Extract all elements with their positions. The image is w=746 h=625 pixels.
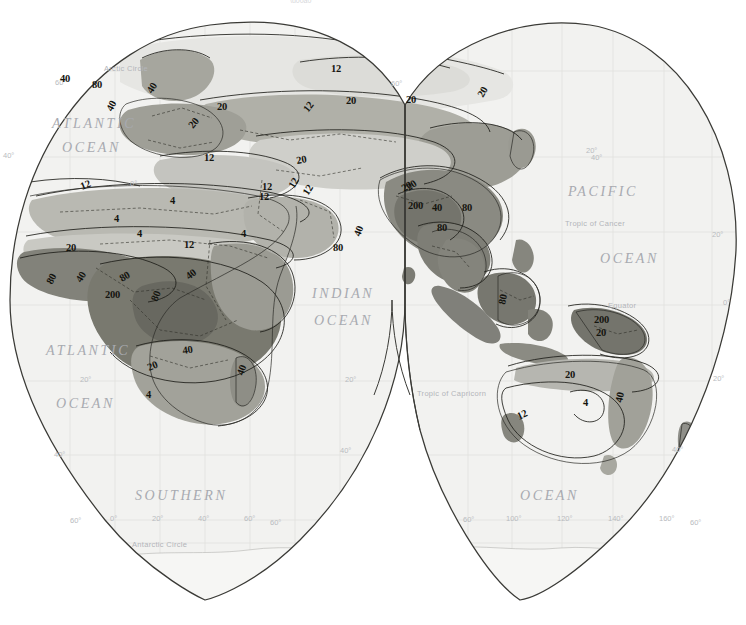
isohyet-label: 80 [333,242,343,253]
graticule-label: 20° [80,375,91,384]
graticule-label: 160° [659,514,675,523]
world-precipitation-map: ATLANTICOCEANATLANTICOCEANINDIANOCEANPAC… [0,0,746,625]
graticule-label: 0° [130,179,137,188]
graticule-label: 40° [672,445,683,454]
isohyet-label: 20 [596,327,606,338]
graticule-label: 60° [244,514,255,523]
graticule-label: 20° [345,375,356,384]
isohyet-label: 20 [217,101,227,112]
graticule-label: 20° [712,230,723,239]
isohyet-label: 20 [66,242,76,253]
graticule-label: 60° [391,79,402,88]
ocean-label: PACIFIC [567,184,638,199]
isohyet-label: 200 [594,314,609,325]
ocean-label: OCEAN [314,313,373,328]
graticule-label: 20° [152,514,163,523]
ocean-label: SOUTHERN [135,488,227,503]
isohyet-label: 200 [105,289,120,300]
graticule-label: 20° [713,374,724,383]
antarctica [95,547,690,610]
reference-line-label: Equator [608,301,637,310]
isohyet-label: 40 [182,344,194,356]
isohyet-label: 40 [432,202,442,213]
isohyet-label: 20 [295,153,307,166]
graticule-label: 40° [3,151,14,160]
reference-line-label: Antarctic Circle [132,540,187,549]
graticule-label: 20° [586,146,597,155]
map-page: \u00a0 [0,0,746,625]
isohyet-label: 12 [331,63,341,74]
reference-line-label: Tropic of Capricorn [417,389,486,398]
graticule-label: 0° [723,298,730,307]
graticule-label: 120° [557,514,573,523]
graticule-label: 60° [463,515,474,524]
ocean-label: ATLANTIC [45,343,130,358]
isohyet-label: 200 [408,200,423,211]
reference-line-label: Arctic Circle [104,64,148,73]
ocean-label: OCEAN [62,140,121,155]
isohyet-label: 12 [184,239,194,250]
isohyet-label: 80 [462,202,472,213]
ocean-label: ATLANTIC [51,116,136,131]
isohyet-label: 12 [259,191,269,202]
isohyet-label: 12 [204,152,214,163]
isohyet-label: 12 [262,181,272,192]
graticule-label: 40° [54,450,65,459]
ocean-label: OCEAN [520,488,579,503]
graticule-label: 140° [608,514,624,523]
ocean-label: OCEAN [56,396,115,411]
graticule-label: 0° [110,514,117,523]
isohyet-label: 20 [406,94,416,105]
isohyet-label: 80 [437,222,447,233]
graticule-label: 100° [506,514,522,523]
isohyet-label: 40 [60,73,70,84]
graticule-label: 40° [198,514,209,523]
ocean-label: OCEAN [600,251,659,266]
isohyet-label: 20 [346,95,356,106]
ocean-label: INDIAN [311,286,374,301]
band-nz [678,421,699,465]
graticule-label: 40° [340,446,351,455]
graticule-label: 60° [690,518,701,527]
reference-line-label: Tropic of Cancer [565,219,625,228]
isohyet-label: 80 [92,79,102,90]
isohyet-label: 20 [565,369,575,380]
graticule-label: 60° [270,518,281,527]
graticule-label: 60° [70,516,81,525]
